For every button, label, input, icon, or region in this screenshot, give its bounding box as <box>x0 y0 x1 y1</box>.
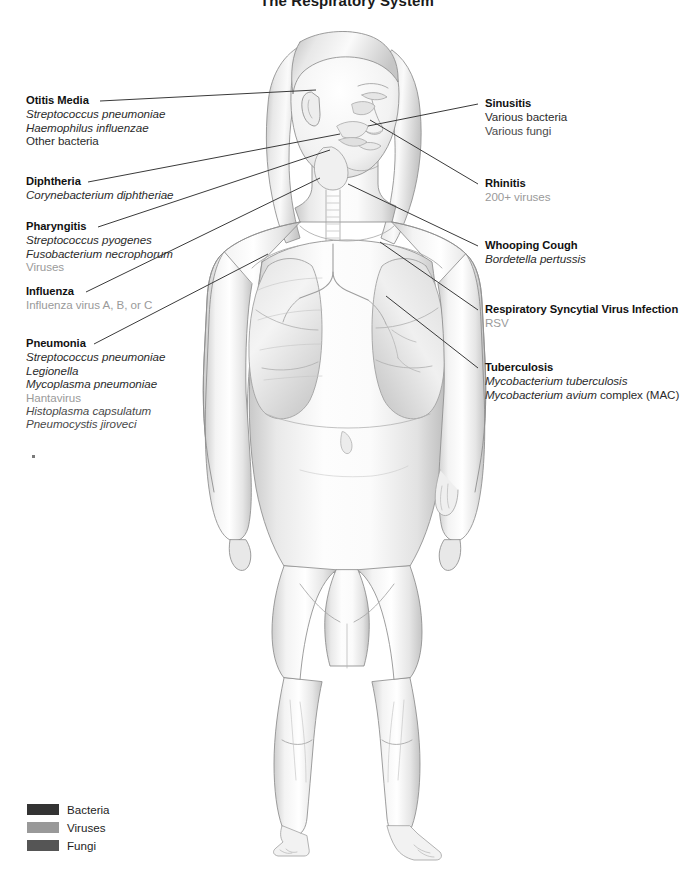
legend: Bacteria Viruses Fungi <box>27 801 110 855</box>
label-item: Various bacteria <box>485 110 567 123</box>
label-item: Fusobacterium necrophorum <box>26 247 173 260</box>
label-item-mac: Mycobacterium avium complex (MAC) <box>485 388 679 401</box>
label-item: Haemophilus influenzae <box>26 121 165 134</box>
label-item: Mycobacterium tuberculosis <box>485 374 679 387</box>
legend-swatch-viruses <box>27 822 59 833</box>
label-item: Mycoplasma pneumoniae <box>26 377 165 390</box>
label-item: Streptococcus pneumoniae <box>26 107 165 120</box>
label-item: Corynebacterium diphtheriae <box>26 188 174 201</box>
label-item-genus: Mycobacterium avium <box>485 388 597 401</box>
label-title: Diphtheria <box>26 175 174 188</box>
label-item: Hantavirus <box>26 391 165 404</box>
label-item: RSV <box>485 316 678 329</box>
label-title: Whooping Cough <box>485 239 586 252</box>
label-item: Other bacteria <box>26 134 165 147</box>
label-block-pneumonia[interactable]: Pneumonia Streptococcus pneumoniae Legio… <box>26 337 165 431</box>
label-item: Various fungi <box>485 124 567 137</box>
label-item: 200+ viruses <box>485 190 550 203</box>
label-title: Otitis Media <box>26 94 165 107</box>
label-item: Influenza virus A, B, or C <box>26 298 152 311</box>
legend-row-bacteria: Bacteria <box>27 801 110 817</box>
label-title: Tuberculosis <box>485 361 679 374</box>
legend-label-viruses: Viruses <box>67 821 105 834</box>
legend-label-bacteria: Bacteria <box>67 803 110 816</box>
label-item: Bordetella pertussis <box>485 252 586 265</box>
label-title: Sinusitis <box>485 97 567 110</box>
label-title: Influenza <box>26 285 152 298</box>
legend-row-viruses: Viruses <box>27 819 110 835</box>
label-block-tuberculosis[interactable]: Tuberculosis Mycobacterium tuberculosis … <box>485 361 679 401</box>
label-block-pharyngitis[interactable]: Pharyngitis Streptococcus pyogenes Fusob… <box>26 220 173 274</box>
legend-row-fungi: Fungi <box>27 837 110 853</box>
label-item: Streptococcus pyogenes <box>26 233 173 246</box>
legend-swatch-fungi <box>27 840 59 851</box>
label-title: Pharyngitis <box>26 220 173 233</box>
label-item-suffix: complex (MAC) <box>597 388 679 401</box>
label-item: Streptococcus pneumoniae <box>26 350 165 363</box>
legend-label-fungi: Fungi <box>67 839 96 852</box>
label-title: Respiratory Syncytial Virus Infection <box>485 303 678 316</box>
label-block-sinusitis[interactable]: Sinusitis Various bacteria Various fungi <box>485 97 567 137</box>
label-block-otitis-media[interactable]: Otitis Media Streptococcus pneumoniae Ha… <box>26 94 165 148</box>
label-block-whooping-cough[interactable]: Whooping Cough Bordetella pertussis <box>485 239 586 266</box>
respiratory-system-diagram: The Respiratory System <box>0 0 694 875</box>
label-title: Rhinitis <box>485 177 550 190</box>
label-block-diphtheria[interactable]: Diphtheria Corynebacterium diphtheriae <box>26 175 174 202</box>
label-item: Legionella <box>26 364 165 377</box>
label-title: Pneumonia <box>26 337 165 350</box>
label-item: Pneumocystis jiroveci <box>26 417 165 430</box>
label-item: Histoplasma capsulatum <box>26 404 165 417</box>
stray-mark <box>32 455 35 458</box>
label-block-rsv-infection[interactable]: Respiratory Syncytial Virus Infection RS… <box>485 303 678 330</box>
label-block-influenza[interactable]: Influenza Influenza virus A, B, or C <box>26 285 152 312</box>
legend-swatch-bacteria <box>27 804 59 815</box>
label-block-rhinitis[interactable]: Rhinitis 200+ viruses <box>485 177 550 204</box>
label-item: Viruses <box>26 260 173 273</box>
